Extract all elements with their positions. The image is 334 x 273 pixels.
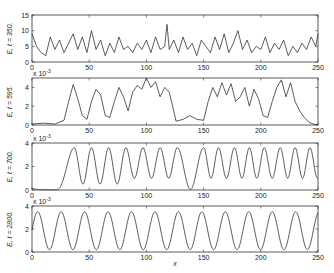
- y-tick-label: 2: [25, 103, 29, 110]
- x-tick-label: 250: [312, 127, 324, 134]
- x-tick-label: 200: [255, 192, 267, 199]
- y-exponent-label: x 10-3: [33, 133, 51, 142]
- x-tick-label: 100: [141, 127, 153, 134]
- y-tick-label: 4: [25, 84, 29, 91]
- y-exponent-label: x 10-3: [33, 68, 51, 77]
- x-tick-label: 200: [255, 64, 267, 71]
- plot-frame: [32, 143, 318, 190]
- x-tick-label: 150: [198, 64, 210, 71]
- data-line: [32, 212, 318, 250]
- y-tick-label: 0: [25, 249, 29, 256]
- y-tick-label: 10: [21, 27, 29, 34]
- y-tick-label: 5: [25, 43, 29, 50]
- y-axis-label: E, t = 700.: [6, 150, 13, 182]
- y-tick-label: 0: [25, 59, 29, 66]
- x-tick-label: 250: [312, 192, 324, 199]
- x-tick-label: 50: [85, 127, 93, 134]
- x-tick-label: 200: [255, 127, 267, 134]
- data-line: [32, 78, 318, 125]
- panel-2: 050100150200250024x 10-3E, t = 595.: [6, 68, 324, 134]
- data-line: [32, 148, 318, 190]
- x-tick-label: 0: [30, 254, 34, 261]
- panel-4: 050100150200250024x 10-3E, t = 2800.: [6, 196, 324, 261]
- x-tick-label: 100: [141, 64, 153, 71]
- x-tick-label: 150: [198, 127, 210, 134]
- figure: 050100150200250051015E, t = 350.05010015…: [0, 0, 334, 273]
- panel-3: 050100150200250024x 10-3E, t = 700.: [6, 133, 324, 199]
- y-tick-label: 4: [25, 203, 29, 210]
- y-tick-label: 2: [25, 163, 29, 170]
- y-exponent-label: x 10-3: [33, 196, 51, 205]
- x-tick-label: 50: [85, 192, 93, 199]
- x-tick-label: 250: [312, 64, 324, 71]
- y-axis-label: E, t = 595.: [6, 85, 13, 117]
- y-tick-label: 15: [21, 12, 29, 19]
- x-tick-label: 0: [30, 127, 34, 134]
- x-tick-label: 100: [141, 192, 153, 199]
- x-tick-label: 50: [85, 64, 93, 71]
- x-tick-label: 50: [85, 254, 93, 261]
- x-tick-label: 100: [141, 254, 153, 261]
- y-axis-label: E, t = 2800.: [6, 211, 13, 247]
- x-tick-label: 150: [198, 254, 210, 261]
- x-tick-label: 200: [255, 254, 267, 261]
- x-tick-label: 250: [312, 254, 324, 261]
- y-tick-label: 2: [25, 226, 29, 233]
- x-axis-label: x: [172, 260, 177, 267]
- y-tick-label: 0: [25, 122, 29, 129]
- plot-frame: [32, 206, 318, 252]
- data-line: [32, 24, 318, 55]
- y-axis-label: E, t = 350.: [6, 22, 13, 54]
- x-tick-label: 150: [198, 192, 210, 199]
- panel-1: 050100150200250051015E, t = 350.: [6, 12, 324, 72]
- y-tick-label: 4: [25, 140, 29, 147]
- y-tick-label: 0: [25, 187, 29, 194]
